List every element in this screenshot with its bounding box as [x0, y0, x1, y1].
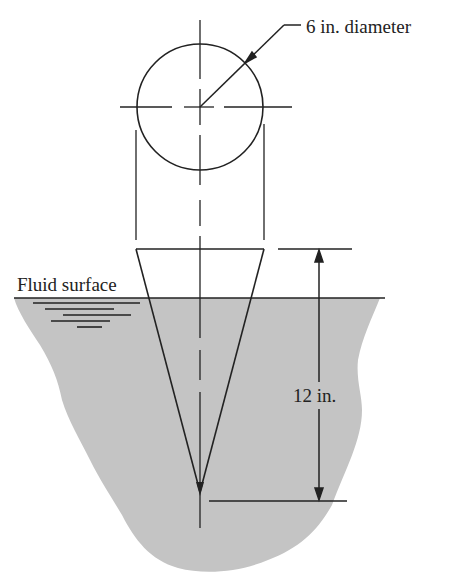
cone-in-fluid-diagram: 6 in. diameter 12 in. Fluid surface [0, 0, 452, 585]
height-label: 12 in. [293, 385, 336, 406]
fluid-region [14, 298, 380, 572]
diameter-leader [200, 25, 301, 107]
fluid-surface-label: Fluid surface [17, 274, 117, 295]
arrow-up-icon [315, 250, 323, 262]
diameter-label: 6 in. diameter [306, 16, 412, 37]
